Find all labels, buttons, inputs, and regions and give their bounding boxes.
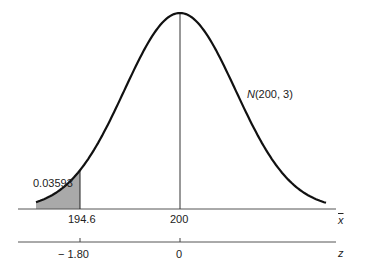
z-tick-label-neg: − 1.80 <box>58 248 89 260</box>
x-axis-label: x <box>338 214 344 226</box>
distribution-params: (200, 3) <box>255 88 293 100</box>
normal-curve-chart <box>0 0 370 278</box>
x-tick-label-200: 200 <box>170 213 188 225</box>
z-tick-label-zero: 0 <box>176 248 182 260</box>
distribution-name: N <box>247 88 255 100</box>
area-label: 0.03593 <box>33 177 73 189</box>
z-axis-label: z <box>338 247 344 259</box>
distribution-label: N(200, 3) <box>247 88 293 100</box>
x-tick-label-194-6: 194.6 <box>68 213 96 225</box>
